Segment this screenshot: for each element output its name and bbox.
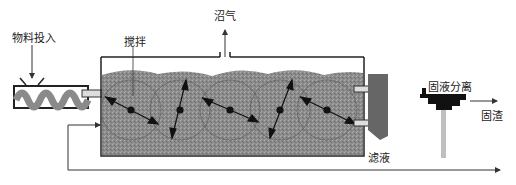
inlet-connector [82,90,102,97]
label-solid-residue: 固渣 [481,111,503,123]
label-biogas: 沼气 [214,11,236,23]
label-filtrate: 滤液 [368,153,390,165]
screw-feeder [14,45,102,108]
label-solid-liquid-separation: 固液分离 [428,82,472,94]
solid-liquid-separator [420,88,497,158]
label-stirring: 搅拌 [124,37,146,49]
label-feed-input: 物料投入 [12,33,56,45]
